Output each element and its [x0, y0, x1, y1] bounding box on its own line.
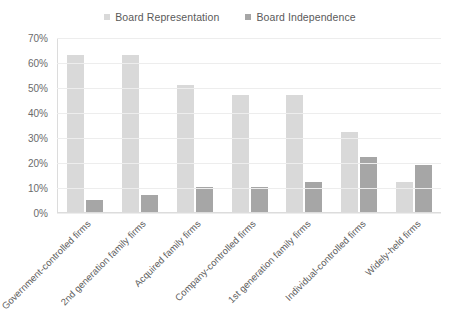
bar-group	[58, 38, 113, 212]
chart-legend: Board Representation Board Independence	[0, 11, 460, 23]
bar-group	[386, 38, 441, 212]
bar[interactable]	[86, 200, 103, 213]
bar[interactable]	[177, 85, 194, 213]
plot-area	[57, 38, 441, 213]
legend-swatch-icon	[245, 14, 251, 20]
gridline	[57, 163, 441, 164]
legend-label: Board Representation	[115, 11, 219, 23]
bar-group	[167, 38, 222, 212]
y-axis-labels: 70%60%50%40%30%20%10%0%	[0, 38, 52, 213]
bar[interactable]	[341, 132, 358, 212]
bar-groups	[58, 38, 441, 212]
bar[interactable]	[141, 195, 158, 213]
bar[interactable]	[196, 187, 213, 212]
y-axis-tick-label: 70%	[0, 33, 48, 44]
bar[interactable]	[305, 182, 322, 212]
bar[interactable]	[396, 182, 413, 212]
legend-label: Board Independence	[256, 11, 355, 23]
bar[interactable]	[360, 157, 377, 212]
bar-group	[113, 38, 168, 212]
bar-group	[222, 38, 277, 212]
x-axis-label-cell: Widely-held firms	[387, 214, 442, 308]
y-axis-tick-label: 40%	[0, 108, 48, 119]
legend-swatch-icon	[104, 14, 110, 20]
gridline	[57, 63, 441, 64]
bar-group	[277, 38, 332, 212]
y-axis-tick-label: 20%	[0, 158, 48, 169]
gridline	[57, 113, 441, 114]
gridline	[57, 188, 441, 189]
y-axis-tick-label: 60%	[0, 58, 48, 69]
legend-item-board-independence[interactable]: Board Independence	[245, 11, 355, 23]
gridline	[57, 88, 441, 89]
y-axis-tick-label: 10%	[0, 183, 48, 194]
y-axis-tick-label: 0%	[0, 208, 48, 219]
gridline	[57, 38, 441, 39]
legend-item-board-representation[interactable]: Board Representation	[104, 11, 219, 23]
x-axis-tick-label: Government-controlled firms	[0, 218, 93, 311]
x-axis-labels: Government-controlled firms2nd generatio…	[58, 214, 442, 308]
bar[interactable]	[251, 187, 268, 212]
y-axis-tick-label: 50%	[0, 83, 48, 94]
gridline	[57, 138, 441, 139]
y-axis-tick-label: 30%	[0, 133, 48, 144]
bar-group	[332, 38, 387, 212]
